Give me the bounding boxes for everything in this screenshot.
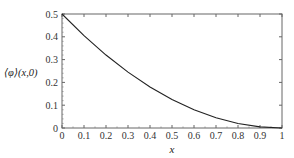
y-tick-label: 0.1	[46, 100, 59, 111]
y-axis-label: ⟨φ⟩(x,0)	[4, 66, 38, 78]
y-tick-label: 0.5	[46, 9, 59, 20]
y-tick-label: 0.2	[46, 77, 59, 88]
x-tick-label: 0.2	[100, 130, 113, 141]
x-tick-label: 0.7	[210, 130, 223, 141]
x-tick-label: 0.9	[254, 130, 267, 141]
x-tick-label: 1	[280, 130, 285, 141]
x-axis-ticks: 00.10.20.30.40.50.60.70.80.91	[60, 14, 285, 141]
data-curve	[62, 14, 282, 128]
x-tick-label: 0.6	[188, 130, 201, 141]
x-tick-label: 0.4	[144, 130, 157, 141]
x-tick-label: 0.8	[232, 130, 245, 141]
x-tick-label: 0.1	[78, 130, 91, 141]
y-tick-label: 0.3	[46, 54, 59, 65]
x-tick-label: 0.3	[122, 130, 135, 141]
x-tick-label: 0.5	[166, 130, 179, 141]
x-tick-label: 0	[60, 130, 65, 141]
y-tick-label: 0	[53, 123, 58, 134]
plot-frame	[62, 14, 282, 128]
line-chart: 00.10.20.30.40.50.60.70.80.91 00.10.20.3…	[0, 0, 294, 158]
y-axis-ticks: 00.10.20.30.40.5	[46, 9, 283, 134]
x-axis-label: x	[169, 143, 175, 155]
y-tick-label: 0.4	[46, 31, 59, 42]
